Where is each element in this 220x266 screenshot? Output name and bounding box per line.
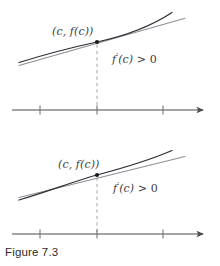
upper-tangent-line bbox=[19, 18, 185, 65]
upper-tangency-point bbox=[95, 40, 99, 44]
figure-container: (c, f(c)) f′(c) > 0 (c, f(c)) bbox=[0, 0, 220, 266]
lower-panel: (c, f(c)) f′(c) > 0 bbox=[12, 151, 203, 239]
lower-tangent-line bbox=[19, 157, 185, 198]
lower-derivative-label: f′(c) > 0 bbox=[112, 181, 158, 195]
upper-panel: (c, f(c)) f′(c) > 0 bbox=[12, 13, 203, 115]
upper-derivative-label: f′(c) > 0 bbox=[111, 52, 157, 66]
lower-point-label: (c, f(c)) bbox=[58, 158, 99, 171]
lower-tangency-point bbox=[95, 173, 99, 177]
figure-graphic: (c, f(c)) f′(c) > 0 (c, f(c)) bbox=[0, 0, 220, 266]
upper-point-label: (c, f(c)) bbox=[52, 25, 93, 38]
figure-caption: Figure 7.3 bbox=[5, 246, 58, 258]
